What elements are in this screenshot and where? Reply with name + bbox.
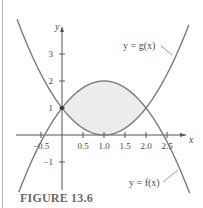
y-axis-arrow-icon xyxy=(60,26,64,32)
f-curve-label: y = f(x) xyxy=(129,177,160,189)
y-tick-label: 3 xyxy=(49,49,54,59)
x-axis-arrow-icon xyxy=(180,133,186,137)
x-tick-label: 1.0 xyxy=(98,141,110,151)
g-leader-line xyxy=(161,46,172,55)
figure-plot: −0.50.51.01.52.02.5321−1xyy = g(x)y = f(… xyxy=(0,0,203,208)
y-tick-label: 1 xyxy=(49,103,54,113)
f-leader-line xyxy=(163,170,178,182)
figure-caption: FIGURE 13.6 xyxy=(20,191,93,206)
y-axis-label: y xyxy=(54,21,60,32)
x-axis-label: x xyxy=(188,134,194,145)
x-tick-label: 1.5 xyxy=(119,141,131,151)
g-curve-label: y = g(x) xyxy=(123,40,155,52)
shaded-area xyxy=(62,81,146,135)
x-tick-label: 0.5 xyxy=(77,141,89,151)
y-tick-label: −1 xyxy=(43,157,53,167)
x-tick-label: 2.5 xyxy=(161,141,173,151)
x-tick-label: −0.5 xyxy=(33,141,50,151)
intersection-point xyxy=(60,106,64,110)
x-tick-label: 2.0 xyxy=(140,141,152,151)
shaded-region xyxy=(62,81,146,135)
y-tick-label: 2 xyxy=(49,76,54,86)
